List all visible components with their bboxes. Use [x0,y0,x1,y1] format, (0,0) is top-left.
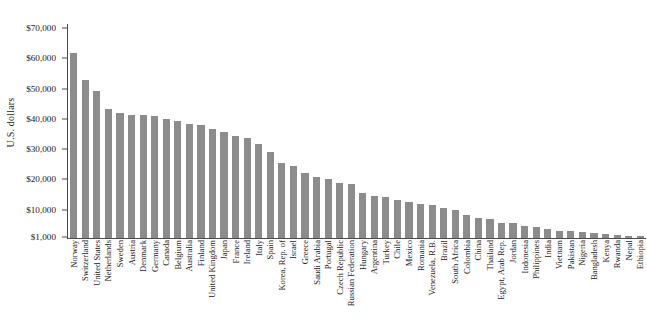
bar-column[interactable] [105,24,112,238]
bar[interactable] [278,163,285,238]
bar-column[interactable] [475,24,482,238]
bar[interactable] [105,109,112,238]
bar[interactable] [70,53,77,238]
bar[interactable] [348,184,355,238]
bar[interactable] [567,231,574,238]
bar[interactable] [417,204,424,238]
bar-column[interactable] [70,24,77,238]
bar[interactable] [116,113,123,238]
bar[interactable] [93,91,100,238]
bar-column[interactable] [255,24,262,238]
bar-column[interactable] [417,24,424,238]
bar-column[interactable] [509,24,516,238]
bar-column[interactable] [174,24,181,238]
bar-column[interactable] [521,24,528,238]
bar-column[interactable] [140,24,147,238]
bar-column[interactable] [463,24,470,238]
bar[interactable] [382,197,389,238]
bar-column[interactable] [336,24,343,238]
bar-column[interactable] [244,24,251,238]
bar[interactable] [220,132,227,238]
bar[interactable] [82,80,89,238]
bar[interactable] [452,210,459,238]
bar[interactable] [625,236,632,239]
bar-column[interactable] [301,24,308,238]
bar-column[interactable] [544,24,551,238]
bar-column[interactable] [290,24,297,238]
bar[interactable] [614,235,621,238]
bar[interactable] [394,200,401,238]
bar[interactable] [359,193,366,238]
bar-column[interactable] [232,24,239,238]
bar-column[interactable] [382,24,389,238]
bar[interactable] [255,144,262,238]
bar-column[interactable] [486,24,493,238]
bar-column[interactable] [579,24,586,238]
bar[interactable] [637,236,644,238]
bar-column[interactable] [82,24,89,238]
bar[interactable] [440,208,447,238]
bar[interactable] [151,116,158,238]
bar-column[interactable] [116,24,123,238]
bar[interactable] [186,124,193,238]
bar[interactable] [533,227,540,238]
bar[interactable] [163,119,170,238]
bar[interactable] [371,196,378,238]
bar[interactable] [301,173,308,238]
bar[interactable] [244,138,251,238]
bar[interactable] [232,136,239,238]
bar[interactable] [521,226,528,239]
bar-column[interactable] [556,24,563,238]
bar-column[interactable] [394,24,401,238]
bar-column[interactable] [590,24,597,238]
bar-column[interactable] [440,24,447,238]
bar-column[interactable] [163,24,170,238]
bar[interactable] [128,115,135,238]
bar-column[interactable] [452,24,459,238]
bar-column[interactable] [313,24,320,238]
bar[interactable] [429,205,436,238]
bar-column[interactable] [128,24,135,238]
bar-column[interactable] [220,24,227,238]
bar-column[interactable] [325,24,332,238]
bar[interactable] [197,125,204,238]
bar[interactable] [498,223,505,238]
bar[interactable] [290,166,297,238]
bar-column[interactable] [278,24,285,238]
bar-column[interactable] [371,24,378,238]
bar-column[interactable] [348,24,355,238]
bar[interactable] [475,218,482,238]
bar[interactable] [544,229,551,238]
bar[interactable] [602,234,609,238]
bar[interactable] [140,115,147,238]
bar[interactable] [174,121,181,238]
bar-column[interactable] [93,24,100,238]
bar[interactable] [579,232,586,238]
bar-column[interactable] [151,24,158,238]
bar-column[interactable] [567,24,574,238]
bar[interactable] [590,233,597,238]
bar-column[interactable] [209,24,216,238]
bar[interactable] [325,179,332,238]
bar-column[interactable] [197,24,204,238]
bar-column[interactable] [429,24,436,238]
bar[interactable] [209,129,216,238]
bar[interactable] [336,183,343,238]
bar[interactable] [463,215,470,238]
bar-column[interactable] [614,24,621,238]
bar-column[interactable] [637,24,644,238]
bar-column[interactable] [405,24,412,238]
bar-column[interactable] [186,24,193,238]
bar[interactable] [313,177,320,238]
bar[interactable] [556,231,563,238]
bar-column[interactable] [625,24,632,238]
bar[interactable] [405,202,412,238]
bar-column[interactable] [533,24,540,238]
bar[interactable] [486,219,493,238]
bar[interactable] [509,223,516,238]
bar-column[interactable] [359,24,366,238]
bar-column[interactable] [498,24,505,238]
bar-column[interactable] [602,24,609,238]
bar-column[interactable] [267,24,274,238]
bar[interactable] [267,152,274,238]
